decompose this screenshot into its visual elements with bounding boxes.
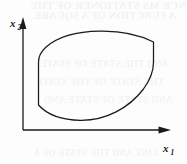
convex-region-outline [39,31,154,120]
x-axis-label-subscript: 1 [171,148,175,157]
y-axis-label-subscript: 2 [17,23,22,32]
x-axis-label: x [162,142,169,154]
figure-container: ONCE MS STATIONER OF THE A FUNCTION OF A… [0,0,187,164]
horizontal-axis-arrowhead-icon [159,126,172,133]
figure-svg-canvas: x 2 x 1 [0,0,187,164]
y-axis-label: x [9,17,16,29]
